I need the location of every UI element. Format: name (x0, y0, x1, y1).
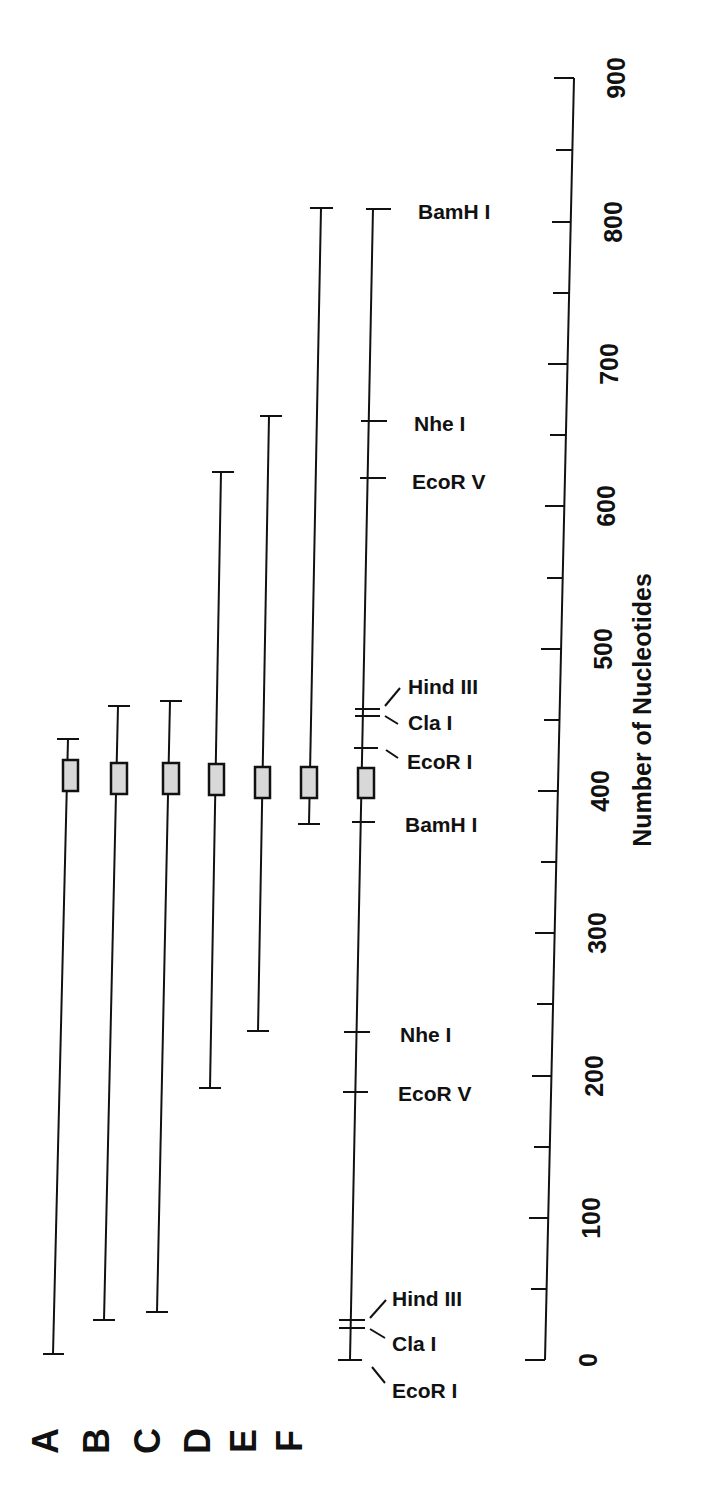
tick-label: 900 (602, 57, 630, 99)
axis (525, 78, 574, 1360)
site-label-hindiii: Hind III (408, 675, 478, 698)
site-label-clai: Cla I (408, 711, 452, 734)
fragment-labels: A B C D E F (25, 1428, 310, 1454)
tick-label: 800 (599, 201, 627, 243)
site-label-clai: Cla I (392, 1332, 436, 1355)
tick-label: 200 (580, 1055, 608, 1097)
site-label-nhei: Nhe I (414, 412, 465, 435)
site-label-ecori: EcoR I (407, 750, 472, 773)
axis-title: Number of Nucleotides (628, 573, 656, 847)
fragment-c (146, 701, 182, 1312)
site-label-hindiii: Hind III (392, 1287, 462, 1310)
tick-label: 0 (574, 1353, 602, 1367)
site-label-bamhi: BamH I (418, 200, 490, 223)
fragment-label-c: C (127, 1428, 168, 1454)
fragment-label-b: B (76, 1428, 117, 1454)
site-label-nhei: Nhe I (400, 1023, 451, 1046)
fragment-b (93, 706, 130, 1320)
tick-label: 700 (595, 343, 623, 385)
site-label-ecori: EcoR I (392, 1379, 457, 1402)
fragment-label-d: D (177, 1428, 218, 1454)
tick-label: 600 (592, 485, 620, 527)
fragment-label-a: A (25, 1428, 66, 1454)
site-labels: EcoR I Cla I Hind III EcoR V Nhe I BamH … (392, 200, 490, 1402)
restriction-map-diagram: 0 100 200 300 400 500 600 700 800 900 Nu… (0, 0, 702, 1498)
axis-tick-labels: 0 100 200 300 400 500 600 700 800 900 (574, 57, 630, 1367)
map-box (358, 768, 374, 798)
fragment-d (199, 472, 234, 1088)
tick-label: 400 (586, 770, 614, 812)
fragment-f (298, 208, 333, 824)
site-label-ecorv: EcoR V (398, 1082, 472, 1105)
fragment-label-e: E (223, 1429, 264, 1453)
site-label-ecorv: EcoR V (412, 470, 486, 493)
fragment-a (43, 739, 79, 1354)
tick-label: 100 (577, 1197, 605, 1239)
tick-label: 500 (589, 628, 617, 670)
fragment-label-f: F (269, 1430, 310, 1452)
fragment-e (247, 416, 282, 1031)
tick-label: 300 (583, 912, 611, 954)
site-label-bamhi: BamH I (405, 813, 477, 836)
